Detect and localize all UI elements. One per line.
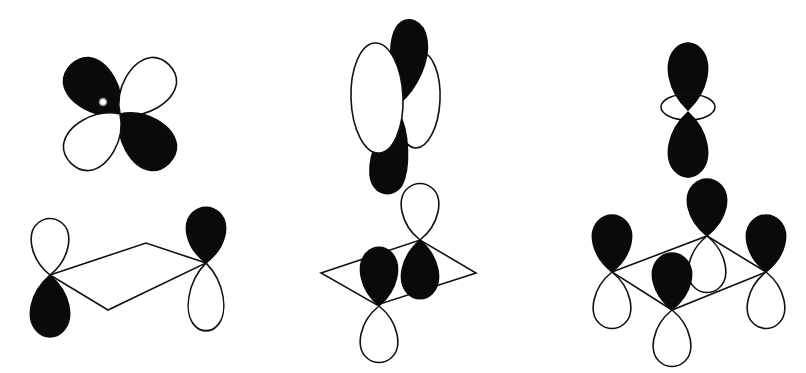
orbital-diagram [0,0,806,373]
lobe-filled-up [668,43,707,110]
lobe-open-up [31,219,69,276]
lobe-filled-up [687,179,726,236]
panel-2 [321,20,476,363]
lobe-filled-down [401,240,438,299]
p-orbital-back [687,179,726,293]
p-orbital-right [746,215,785,329]
nucleus-ring [100,99,107,106]
dz2-orbital [661,43,715,177]
rhombus-bond-frame [50,243,206,310]
lobe-open-down [747,272,785,329]
lobe-open-down [188,263,224,331]
lobe-open-up [401,184,439,241]
lobe-filled-up [186,207,225,263]
d-orbital-cloverleaf [54,48,186,180]
lobe-filled-up [592,215,631,272]
lobe-open-down [360,306,398,363]
lobe-filled-down [30,275,69,337]
lobe-open-down [653,310,691,367]
panel-1 [30,48,225,337]
p-orbital-front [360,247,398,362]
p-orbital-front [652,253,691,367]
p-orbital-back [401,184,439,299]
tilted-d-orbital [349,20,442,194]
p-orbital-left [30,219,69,338]
p-orbital-left [592,215,631,329]
lobe-filled-down [668,112,707,177]
lobe-filled-up [360,247,397,306]
rhombus-bond-frame [321,240,476,305]
panel-3 [592,43,785,366]
